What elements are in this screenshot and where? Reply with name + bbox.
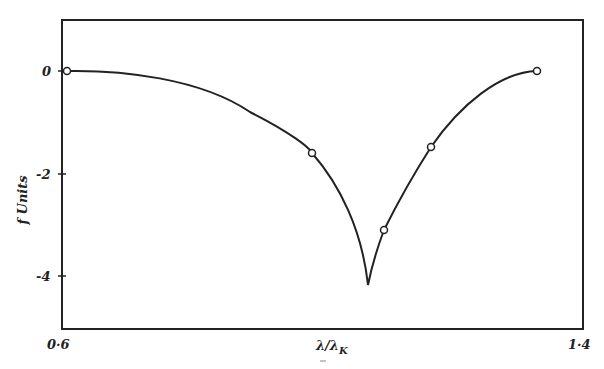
data-point (428, 144, 435, 151)
data-point (309, 150, 316, 157)
x-tick-label-right: 1·4 (568, 337, 591, 352)
chart: 0 -2 -4 0·6 1·4 f Units λ/λK (0, 0, 604, 369)
y-tick-label-minus2: -2 (36, 167, 50, 182)
plot-frame (62, 20, 583, 329)
x-axis-title: λ/λK (315, 338, 349, 356)
x-tick-label-left: 0·6 (47, 337, 70, 352)
data-point (381, 227, 388, 234)
y-tick-label-minus4: -4 (36, 269, 50, 284)
data-curve (67, 71, 537, 285)
data-markers (64, 68, 541, 234)
y-tick-label-0: 0 (42, 64, 51, 79)
data-point (64, 68, 71, 75)
data-point (534, 68, 541, 75)
y-axis-title: f Units (15, 175, 30, 226)
